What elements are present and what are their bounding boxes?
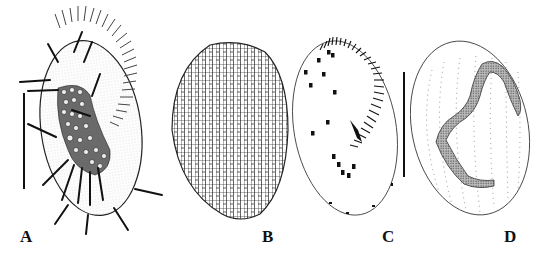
- panel-c: C: [290, 0, 420, 254]
- dorsal-kineties-drawing: [410, 0, 549, 254]
- panel-b: B: [160, 0, 300, 254]
- ciliate-live-drawing: [0, 0, 170, 254]
- panel-label-d: D: [504, 227, 516, 247]
- infraciliature-drawing: [290, 0, 420, 254]
- panel-a: A: [0, 0, 170, 254]
- panel-label-a: A: [20, 227, 32, 247]
- panel-label-b: B: [262, 227, 273, 247]
- panel-label-c: C: [382, 227, 394, 247]
- panel-d: D: [410, 0, 549, 254]
- silverline-drawing: [160, 0, 300, 254]
